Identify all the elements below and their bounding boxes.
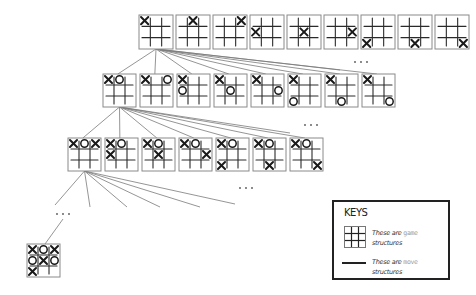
legend-move-prefix: These are — [372, 258, 403, 266]
game-board-level-1-7 — [361, 15, 395, 49]
legend-game-suffix: structures — [372, 239, 402, 247]
game-board-level-2-1 — [103, 74, 136, 107]
move-edge — [85, 171, 201, 207]
game-board-level-1-3 — [213, 15, 247, 49]
move-edge — [85, 171, 236, 204]
game-board-level-1-2 — [176, 15, 210, 49]
ellipsis — [56, 213, 70, 215]
legend-game-accent: game — [403, 229, 417, 237]
game-board-level-1-5 — [287, 15, 321, 49]
move-edge — [85, 171, 91, 207]
game-board-level-1-1 — [139, 15, 173, 49]
move-edge — [55, 171, 85, 205]
game-board-level-3-2 — [105, 138, 138, 171]
move-edge — [83, 107, 120, 138]
game-board-level-2-2 — [140, 74, 173, 107]
legend-game-text: These are game structures — [372, 228, 418, 248]
game-board-level-3-4 — [179, 138, 212, 171]
game-board-level-3-7 — [290, 138, 323, 171]
legend-move-text: These are move structures — [372, 257, 418, 277]
move-edge — [85, 171, 128, 207]
game-board-level-final-1 — [27, 244, 60, 277]
move-edge — [118, 49, 156, 74]
move-edge — [45, 219, 63, 244]
move-edge — [85, 171, 161, 207]
game-board-level-2-6 — [288, 74, 321, 107]
game-board-level-2-7 — [325, 74, 358, 107]
legend-move-accent: move — [403, 258, 417, 266]
game-board-level-2-3 — [177, 74, 210, 107]
move-edge — [120, 107, 291, 133]
game-board-level-3-6 — [253, 138, 286, 171]
game-board-level-2-5 — [251, 74, 284, 107]
ellipsis — [304, 124, 318, 126]
game-board-level-1-9 — [435, 15, 469, 49]
move-edge — [156, 49, 340, 70]
game-board-level-3-1 — [68, 138, 101, 171]
game-structure-icon — [344, 226, 366, 248]
game-board-level-3-5 — [216, 138, 249, 171]
move-edge — [156, 49, 303, 74]
move-edge — [120, 107, 194, 138]
legend-game-prefix: These are — [372, 229, 403, 237]
game-board-level-1-6 — [324, 15, 358, 49]
move-edge — [120, 107, 305, 138]
game-board-level-2-4 — [214, 74, 247, 107]
game-board-level-1-4 — [250, 15, 284, 49]
legend-move-suffix: structures — [372, 268, 402, 276]
ellipsis — [239, 187, 253, 189]
move-edge — [120, 107, 268, 138]
game-board-level-2-8 — [362, 74, 395, 107]
ellipsis — [354, 61, 368, 63]
move-edge — [155, 49, 156, 74]
game-board-level-1-8 — [398, 15, 432, 49]
move-structure-icon — [342, 262, 366, 264]
game-board-level-3-3 — [142, 138, 175, 171]
legend-title: KEYS — [344, 207, 367, 218]
legend-key: KEYS These are game structures These are… — [332, 200, 450, 280]
